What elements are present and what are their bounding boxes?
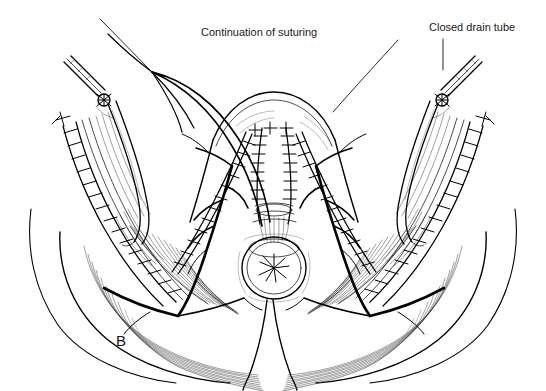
panel-letter: B <box>116 332 126 349</box>
perineal-closure-illustration: Continuation of suturing Closed drain tu… <box>0 0 546 391</box>
label-continuation-of-suturing: Continuation of suturing <box>201 26 317 38</box>
figure-background <box>0 0 546 391</box>
label-closed-drain-tube: Closed drain tube <box>429 21 515 33</box>
figure-container: Continuation of suturing Closed drain tu… <box>0 0 546 391</box>
